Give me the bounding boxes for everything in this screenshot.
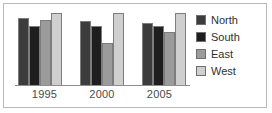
x-axis-category-labels: 199520002005	[18, 87, 186, 103]
legend-item-north: North	[196, 12, 262, 28]
bar-west-1995	[51, 13, 62, 85]
bar-group-2005	[142, 9, 186, 85]
bar-north-2000	[80, 21, 91, 85]
plot-area	[18, 9, 186, 85]
bar-west-2000	[113, 13, 124, 85]
legend-label-north: North	[211, 14, 238, 26]
bar-groups	[18, 9, 186, 85]
x-axis-label-2000: 2000	[76, 87, 129, 103]
x-axis-label-2005: 2005	[133, 87, 186, 103]
legend-label-west: West	[211, 65, 236, 77]
legend-label-east: East	[211, 48, 233, 60]
bar-north-1995	[18, 18, 29, 85]
legend-swatch-south	[196, 32, 206, 42]
chart-frame: 199520002005 NorthSouthEastWest	[3, 3, 267, 108]
bar-west-2005	[175, 13, 186, 85]
legend-label-south: South	[211, 31, 240, 43]
bar-east-2000	[102, 43, 113, 85]
bar-group-2000	[80, 9, 124, 85]
bar-east-2005	[164, 32, 175, 85]
bar-north-2005	[142, 23, 153, 85]
bar-east-1995	[40, 20, 51, 85]
x-axis-label-1995: 1995	[18, 87, 71, 103]
chart-legend: NorthSouthEastWest	[196, 12, 262, 80]
bar-south-2000	[91, 26, 102, 85]
legend-swatch-west	[196, 66, 206, 76]
legend-item-east: East	[196, 46, 262, 62]
bar-south-1995	[29, 26, 40, 85]
legend-item-west: West	[196, 63, 262, 79]
legend-swatch-north	[196, 15, 206, 25]
legend-swatch-east	[196, 49, 206, 59]
bar-group-1995	[18, 9, 62, 85]
x-axis-line	[15, 85, 190, 86]
bar-south-2005	[153, 26, 164, 85]
legend-item-south: South	[196, 29, 262, 45]
